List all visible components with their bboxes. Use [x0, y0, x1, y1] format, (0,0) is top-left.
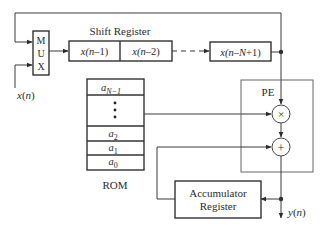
rom-block: aN−1 a2 a1 a0	[87, 79, 144, 170]
rom-ellipsis-dot-2	[114, 109, 117, 112]
shift-register: x(n–1) x(n–2)	[69, 41, 172, 61]
register-cell-2: x(n–2)	[131, 46, 160, 58]
input-label: x(n)	[16, 89, 35, 102]
accumulator-label-line2: Register	[200, 200, 237, 212]
accumulator-label-line1: Accumulator	[189, 187, 247, 199]
mux-letter-u: U	[37, 48, 45, 59]
add-icon: +	[278, 141, 285, 155]
rom-label: ROM	[102, 179, 127, 191]
mux-block: M U X	[33, 31, 49, 75]
mux-letter-x: X	[37, 61, 45, 72]
mux-letter-m: M	[37, 35, 46, 46]
accumulator-register: Accumulator Register	[175, 181, 261, 218]
pe-block	[241, 80, 313, 172]
register-cell-1: x(n–1)	[80, 46, 109, 58]
rom-ellipsis-dot-3	[114, 116, 117, 119]
output-label: y(n)	[287, 206, 306, 219]
rom-ellipsis-dot-1	[114, 102, 117, 105]
shift-register-title: Shift Register	[90, 25, 151, 37]
pe-label: PE	[262, 86, 275, 98]
adder: +	[272, 138, 290, 156]
multiply-icon: ×	[278, 108, 284, 120]
input-wire	[15, 65, 32, 88]
multiplier: ×	[272, 105, 290, 123]
fir-block-diagram: x(n) M U X Shift Register x(n–1) x(n–2) …	[0, 0, 326, 235]
register-cell-last-block: x(n–N+1)	[210, 42, 271, 61]
register-cell-last: x(n–N+1)	[219, 47, 261, 59]
